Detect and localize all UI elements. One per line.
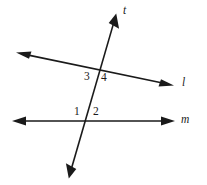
angle-label-4: 4 bbox=[101, 72, 107, 84]
line-label-t: t bbox=[123, 5, 126, 17]
angle-label-2: 2 bbox=[93, 106, 99, 118]
angle-label-3: 3 bbox=[84, 71, 90, 83]
line-t-arrowhead-bottom bbox=[66, 163, 76, 178]
line-t-segment bbox=[72, 24, 114, 168]
angle-label-1: 1 bbox=[74, 106, 80, 118]
line-l-arrowhead-right bbox=[159, 79, 175, 86]
line-m bbox=[12, 117, 175, 126]
line-m-arrowhead-left bbox=[12, 117, 26, 126]
line-m-arrowhead-right bbox=[161, 117, 175, 126]
line-l bbox=[16, 51, 174, 86]
geometry-figure: 1 2 3 4 t l m bbox=[0, 0, 207, 185]
line-label-l: l bbox=[182, 77, 185, 89]
line-t bbox=[66, 14, 119, 179]
line-label-m: m bbox=[181, 114, 189, 126]
geometry-canvas bbox=[0, 0, 207, 185]
line-l-segment bbox=[26, 55, 165, 84]
line-l-arrowhead-left bbox=[16, 51, 32, 58]
line-t-arrowhead-top bbox=[109, 14, 119, 29]
